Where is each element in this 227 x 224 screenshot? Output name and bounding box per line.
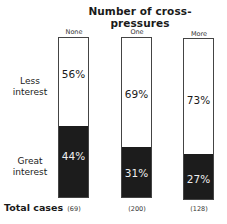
- row-label-line: interest: [6, 87, 54, 98]
- row-label-less-interest: Less interest: [6, 76, 54, 98]
- bar-more: 73% 27%: [183, 38, 214, 200]
- segment-great-one: 31%: [122, 147, 151, 197]
- bar-one: 69% 31%: [121, 37, 152, 198]
- pct-great-none: 44%: [59, 150, 88, 162]
- pct-less-more: 73%: [184, 94, 213, 106]
- category-label-more: More: [179, 30, 219, 38]
- row-label-line: Less: [6, 76, 54, 87]
- segment-great-none: 44%: [59, 126, 88, 197]
- row-label-line: Great: [6, 156, 54, 167]
- bar-none: 56% 44%: [58, 37, 89, 198]
- total-one: (200): [117, 205, 157, 213]
- chart-title: Number of cross-pressures: [60, 5, 220, 29]
- total-none: (69): [54, 205, 94, 213]
- row-label-great-interest: Great interest: [6, 156, 54, 178]
- total-more: (128): [179, 205, 219, 213]
- row-label-line: interest: [6, 167, 54, 178]
- pct-great-one: 31%: [122, 167, 151, 179]
- category-label-none: None: [54, 28, 94, 36]
- pct-great-more: 27%: [184, 173, 213, 185]
- pct-less-none: 56%: [59, 68, 88, 80]
- category-label-one: One: [117, 28, 157, 36]
- pct-less-one: 69%: [122, 88, 151, 100]
- segment-great-more: 27%: [184, 154, 213, 199]
